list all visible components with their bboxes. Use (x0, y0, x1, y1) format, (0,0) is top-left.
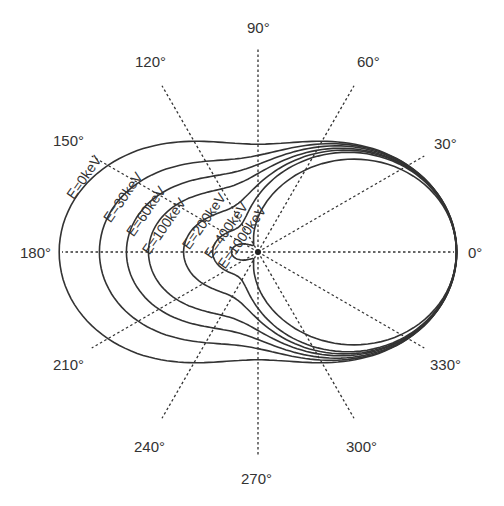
angle-label-210: 210° (53, 356, 84, 373)
angle-label-90: 90° (247, 19, 270, 36)
origin-dot (255, 249, 261, 255)
angle-label-330: 330° (430, 356, 461, 373)
angle-label-120: 120° (135, 53, 166, 70)
curve-label: E=0keV (63, 152, 105, 202)
polar-diagram: 0°30°60°90°120°150°180°210°240°270°300°3… (0, 0, 504, 506)
angle-label-270: 270° (241, 470, 272, 487)
angle-label-240: 240° (134, 438, 165, 455)
angle-labels: 0°30°60°90°120°150°180°210°240°270°300°3… (20, 19, 482, 487)
angle-label-30: 30° (434, 135, 457, 152)
angle-label-150: 150° (53, 132, 84, 149)
angle-label-180: 180° (20, 244, 51, 261)
angle-label-60: 60° (357, 53, 380, 70)
angle-label-0: 0° (468, 244, 482, 261)
spoke-330 (258, 252, 424, 348)
angle-label-300: 300° (346, 438, 377, 455)
spoke-30 (258, 156, 424, 252)
